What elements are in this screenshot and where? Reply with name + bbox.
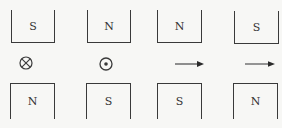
pole-label: N bbox=[28, 95, 38, 108]
pole-label: N bbox=[104, 20, 114, 33]
pole-label: S bbox=[29, 20, 37, 33]
cross-in-circle-icon bbox=[19, 56, 33, 70]
magnet-top-2: N bbox=[87, 10, 131, 43]
magnet-top-4: S bbox=[234, 11, 279, 44]
magnet-bottom-4: N bbox=[233, 83, 278, 119]
pole-label: S bbox=[176, 95, 184, 108]
magnet-bottom-2: S bbox=[86, 83, 131, 119]
magnet-top-3: N bbox=[157, 10, 202, 43]
magnet-bottom-1: N bbox=[10, 83, 55, 119]
magnet-top-1: S bbox=[11, 10, 55, 43]
pole-label: N bbox=[175, 20, 185, 33]
magnet-bottom-3: S bbox=[157, 83, 202, 119]
arrow-right-icon bbox=[175, 60, 205, 68]
arrow-right-icon bbox=[245, 60, 276, 68]
pole-label: N bbox=[251, 95, 261, 108]
pole-label: S bbox=[253, 21, 261, 34]
dot-in-circle-icon bbox=[99, 57, 113, 71]
pole-label: S bbox=[105, 95, 113, 108]
